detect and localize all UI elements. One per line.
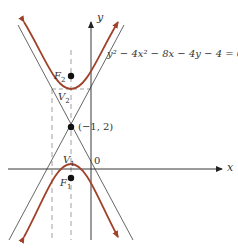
- equation-label: y² − 4x² − 8x − 4y − 4 = 0: [107, 49, 238, 59]
- center-point: [68, 124, 74, 130]
- f2-label-sub: 2: [61, 76, 65, 84]
- v2-label-sub: 2: [65, 97, 69, 105]
- center-label: (−1, 2): [78, 122, 113, 132]
- origin-label: 0: [94, 156, 100, 166]
- v1-label: V1: [63, 155, 75, 168]
- hyperbola-graph: [0, 0, 238, 249]
- v2-label: V2: [58, 92, 70, 105]
- f2-label-main: F: [54, 70, 61, 81]
- v1-label-sub: 1: [70, 160, 74, 168]
- f1-label-sub: 1: [67, 183, 71, 191]
- focus-f2-point: [68, 73, 74, 79]
- f1-label: F1: [60, 178, 71, 191]
- f1-label-main: F: [60, 177, 67, 188]
- y-axis-label: y: [97, 12, 103, 23]
- f2-label: F2: [54, 71, 65, 84]
- x-axis-label: x: [227, 162, 233, 173]
